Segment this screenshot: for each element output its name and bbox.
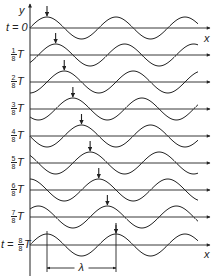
wave-row	[30, 6, 210, 39]
wave-diagram	[0, 0, 219, 278]
wave-row	[30, 223, 210, 256]
wave-row	[30, 60, 210, 93]
wave-row	[30, 33, 210, 66]
wave-row	[30, 195, 210, 228]
wave-row	[30, 114, 210, 147]
y-axis-label: y	[19, 5, 25, 16]
x-axis-label: x	[204, 33, 210, 44]
wave-row	[30, 87, 210, 120]
wavelength-label: λ	[79, 262, 84, 273]
x-axis-label: x	[204, 249, 210, 260]
